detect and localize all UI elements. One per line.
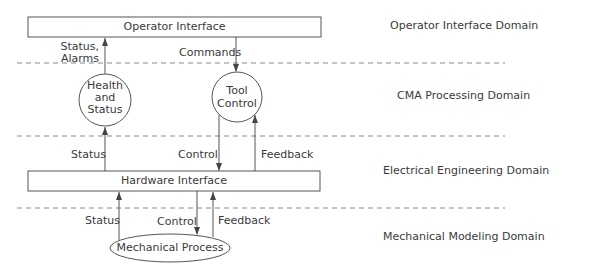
domain-mechanical-label: Mechanical Modeling Domain [383, 230, 545, 243]
control-ee-label: Control [178, 148, 218, 161]
tool-line-1: Tool [212, 84, 262, 97]
arrowhead-up-icon [102, 127, 108, 135]
control-mech-label: Control [157, 215, 197, 228]
health-line-3: Status [79, 104, 131, 116]
operator-interface-label: Operator Interface [28, 20, 321, 33]
arrowhead-up-icon [102, 38, 108, 46]
health-status-label: Health and Status [79, 80, 131, 116]
feedback-ee-label: Feedback [261, 148, 313, 161]
arrowhead-down-icon [233, 64, 239, 72]
arrowhead-up-icon [210, 192, 216, 200]
arrowhead-up-icon [116, 192, 122, 200]
tool-line-2: Control [212, 97, 262, 110]
feedback-mech-label: Feedback [218, 214, 270, 227]
arrowhead-down-icon [216, 163, 222, 171]
domain-cma-label: CMA Processing Domain [397, 89, 530, 102]
status-mech-label: Status [85, 214, 120, 227]
mechanical-process-label: Mechanical Process [110, 241, 230, 254]
commands-label: Commands [179, 46, 241, 59]
domain-operator-label: Operator Interface Domain [390, 19, 538, 32]
arrowhead-down-icon [194, 227, 200, 235]
tool-control-label: Tool Control [212, 84, 262, 110]
status-alarms-line-2: Alarms [50, 53, 99, 65]
hardware-interface-label: Hardware Interface [28, 174, 320, 187]
status-alarms-label: Status, Alarms [50, 41, 99, 65]
status-ee-label: Status [71, 148, 106, 161]
domain-electrical-label: Electrical Engineering Domain [383, 164, 549, 177]
